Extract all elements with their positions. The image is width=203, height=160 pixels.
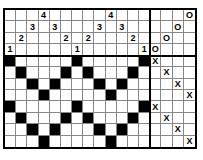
empty-cell[interactable] xyxy=(117,136,128,147)
empty-cell[interactable] xyxy=(50,56,61,67)
black-cell[interactable] xyxy=(128,67,139,78)
empty-cell[interactable] xyxy=(39,67,50,78)
empty-cell[interactable] xyxy=(128,101,139,112)
empty-cell[interactable] xyxy=(150,90,161,101)
empty-cell[interactable] xyxy=(184,56,195,67)
empty-cell[interactable] xyxy=(128,124,139,135)
empty-cell[interactable] xyxy=(173,90,184,101)
empty-cell[interactable] xyxy=(117,56,128,67)
empty-cell[interactable] xyxy=(94,113,105,124)
black-cell[interactable] xyxy=(83,67,94,78)
empty-cell[interactable] xyxy=(94,101,105,112)
empty-cell[interactable] xyxy=(39,113,50,124)
empty-cell[interactable] xyxy=(72,90,83,101)
empty-cell[interactable] xyxy=(161,136,172,147)
empty-cell[interactable] xyxy=(184,113,195,124)
empty-cell[interactable] xyxy=(39,101,50,112)
empty-cell[interactable] xyxy=(83,136,94,147)
empty-cell[interactable] xyxy=(173,56,184,67)
empty-cell[interactable] xyxy=(5,90,16,101)
empty-cell[interactable] xyxy=(117,113,128,124)
black-cell[interactable] xyxy=(72,101,83,112)
empty-cell[interactable] xyxy=(106,124,117,135)
empty-cell[interactable] xyxy=(150,67,161,78)
mark-cell[interactable]: X xyxy=(150,56,161,67)
empty-cell[interactable] xyxy=(106,113,117,124)
empty-cell[interactable] xyxy=(173,113,184,124)
empty-cell[interactable] xyxy=(27,56,38,67)
empty-cell[interactable] xyxy=(94,56,105,67)
empty-cell[interactable] xyxy=(94,67,105,78)
empty-cell[interactable] xyxy=(150,113,161,124)
empty-cell[interactable] xyxy=(150,136,161,147)
black-cell[interactable] xyxy=(27,79,38,90)
empty-cell[interactable] xyxy=(39,56,50,67)
empty-cell[interactable] xyxy=(16,56,27,67)
empty-cell[interactable] xyxy=(128,79,139,90)
empty-cell[interactable] xyxy=(128,90,139,101)
empty-cell[interactable] xyxy=(50,101,61,112)
black-cell[interactable] xyxy=(39,90,50,101)
empty-cell[interactable] xyxy=(161,101,172,112)
empty-cell[interactable] xyxy=(150,124,161,135)
black-cell[interactable] xyxy=(50,79,61,90)
empty-cell[interactable] xyxy=(161,90,172,101)
empty-cell[interactable] xyxy=(83,90,94,101)
empty-cell[interactable] xyxy=(61,136,72,147)
empty-cell[interactable] xyxy=(106,101,117,112)
empty-cell[interactable] xyxy=(5,136,16,147)
empty-cell[interactable] xyxy=(173,101,184,112)
mark-cell[interactable]: X xyxy=(161,113,172,124)
empty-cell[interactable] xyxy=(61,124,72,135)
empty-cell[interactable] xyxy=(61,79,72,90)
mark-cell[interactable]: X xyxy=(184,136,195,147)
empty-cell[interactable] xyxy=(27,136,38,147)
empty-cell[interactable] xyxy=(50,136,61,147)
black-cell[interactable] xyxy=(5,56,16,67)
black-cell[interactable] xyxy=(83,113,94,124)
empty-cell[interactable] xyxy=(16,79,27,90)
empty-cell[interactable] xyxy=(16,136,27,147)
black-cell[interactable] xyxy=(39,136,50,147)
black-cell[interactable] xyxy=(117,79,128,90)
empty-cell[interactable] xyxy=(5,67,16,78)
empty-cell[interactable] xyxy=(150,79,161,90)
empty-cell[interactable] xyxy=(106,56,117,67)
empty-cell[interactable] xyxy=(83,56,94,67)
empty-cell[interactable] xyxy=(16,124,27,135)
empty-cell[interactable] xyxy=(5,124,16,135)
black-cell[interactable] xyxy=(106,136,117,147)
empty-cell[interactable] xyxy=(117,67,128,78)
empty-cell[interactable] xyxy=(72,124,83,135)
empty-cell[interactable] xyxy=(106,67,117,78)
empty-cell[interactable] xyxy=(83,79,94,90)
empty-cell[interactable] xyxy=(161,124,172,135)
empty-cell[interactable] xyxy=(39,79,50,90)
empty-cell[interactable] xyxy=(83,124,94,135)
empty-cell[interactable] xyxy=(83,101,94,112)
empty-cell[interactable] xyxy=(50,90,61,101)
empty-cell[interactable] xyxy=(27,101,38,112)
black-cell[interactable] xyxy=(117,124,128,135)
black-cell[interactable] xyxy=(61,113,72,124)
mark-cell[interactable]: X xyxy=(184,90,195,101)
empty-cell[interactable] xyxy=(173,136,184,147)
black-cell[interactable] xyxy=(16,113,27,124)
empty-cell[interactable] xyxy=(5,79,16,90)
empty-cell[interactable] xyxy=(72,67,83,78)
empty-cell[interactable] xyxy=(39,124,50,135)
empty-cell[interactable] xyxy=(16,90,27,101)
black-cell[interactable] xyxy=(27,124,38,135)
empty-cell[interactable] xyxy=(5,113,16,124)
empty-cell[interactable] xyxy=(61,101,72,112)
empty-cell[interactable] xyxy=(184,101,195,112)
black-cell[interactable] xyxy=(94,79,105,90)
empty-cell[interactable] xyxy=(27,113,38,124)
empty-cell[interactable] xyxy=(50,113,61,124)
empty-cell[interactable] xyxy=(128,136,139,147)
black-cell[interactable] xyxy=(5,101,16,112)
empty-cell[interactable] xyxy=(117,101,128,112)
black-cell[interactable] xyxy=(50,124,61,135)
empty-cell[interactable] xyxy=(72,136,83,147)
black-cell[interactable] xyxy=(16,67,27,78)
